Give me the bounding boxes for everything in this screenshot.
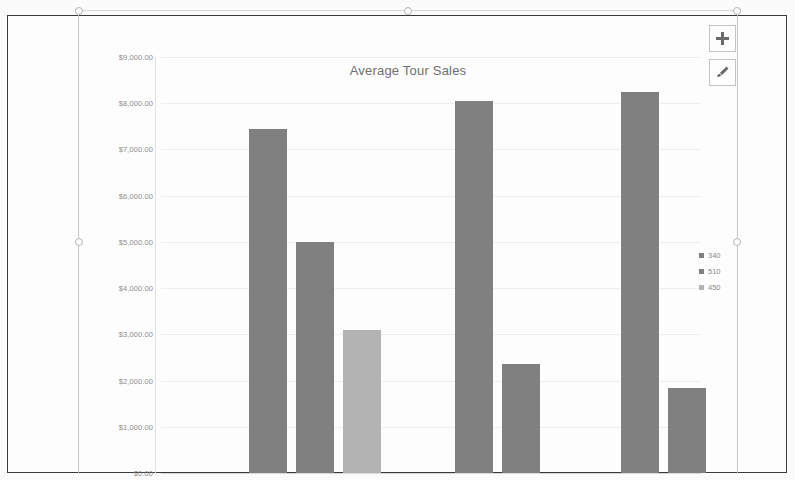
gridline	[161, 288, 701, 289]
chart-canvas[interactable]: Average Tour Sales $9,000.00$8,000.00$7,…	[79, 11, 737, 472]
gridline	[161, 103, 701, 104]
y-axis-tick-label: $1,000.00	[119, 422, 153, 431]
y-axis-tick-label: $9,000.00	[119, 53, 153, 62]
y-axis-tick-label: $2,000.00	[119, 376, 153, 385]
legend-swatch	[699, 253, 704, 258]
y-axis-tick-label: $4,000.00	[119, 284, 153, 293]
bar[interactable]	[296, 242, 334, 473]
gridline	[161, 473, 701, 474]
legend-item[interactable]: 450	[699, 279, 721, 295]
y-axis-tick-label: $3,000.00	[119, 330, 153, 339]
chart-legend[interactable]: 340510450	[699, 247, 721, 295]
chart-styles-button[interactable]	[709, 59, 736, 86]
paintbrush-icon	[715, 65, 730, 80]
gridline	[161, 427, 701, 428]
legend-swatch	[699, 285, 704, 290]
legend-item[interactable]: 340	[699, 247, 721, 263]
chart-elements-button[interactable]	[709, 25, 736, 52]
y-axis-tick-label: $5,000.00	[119, 237, 153, 246]
bar[interactable]	[343, 330, 381, 473]
legend-label: 510	[708, 267, 721, 276]
gridline	[161, 381, 701, 382]
gridline	[161, 242, 701, 243]
gridline	[161, 57, 701, 58]
plot-area: $9,000.00$8,000.00$7,000.00$6,000.00$5,0…	[161, 57, 701, 473]
bar[interactable]	[455, 101, 493, 473]
legend-label: 340	[708, 251, 721, 260]
chart-floating-buttons	[709, 25, 736, 86]
scanned-page: Average Tour Sales $9,000.00$8,000.00$7,…	[0, 0, 795, 480]
legend-label: 450	[708, 283, 721, 292]
bar[interactable]	[249, 129, 287, 473]
gridline	[161, 334, 701, 335]
y-axis-line	[155, 57, 156, 473]
bar[interactable]	[668, 388, 706, 474]
y-axis-tick-label: $8,000.00	[119, 99, 153, 108]
y-axis-tick-label: $6,000.00	[119, 191, 153, 200]
y-axis-tick-label: $0.00	[134, 469, 153, 478]
plus-icon	[716, 32, 729, 45]
bar[interactable]	[621, 92, 659, 473]
legend-swatch	[699, 269, 704, 274]
gridline	[161, 196, 701, 197]
bar[interactable]	[502, 364, 540, 473]
gridline	[161, 149, 701, 150]
y-axis-tick-label: $7,000.00	[119, 145, 153, 154]
legend-item[interactable]: 510	[699, 263, 721, 279]
